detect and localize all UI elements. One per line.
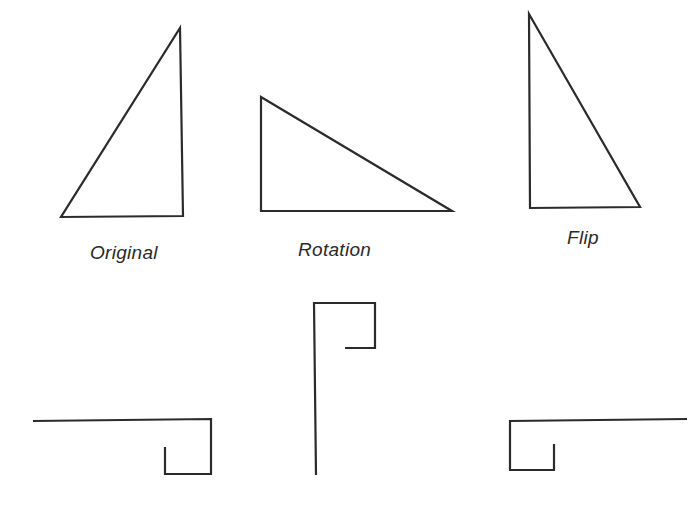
hook-left xyxy=(33,419,211,474)
label-original: Original xyxy=(90,243,158,262)
transformation-diagram: Original Rotation Flip xyxy=(0,0,696,506)
hook-right xyxy=(510,419,687,470)
triangle-rotation xyxy=(261,97,452,211)
triangle-original xyxy=(61,28,183,217)
label-rotation: Rotation xyxy=(298,240,371,259)
hook-middle xyxy=(314,303,375,475)
label-flip: Flip xyxy=(567,228,599,247)
triangle-flip xyxy=(529,14,640,208)
